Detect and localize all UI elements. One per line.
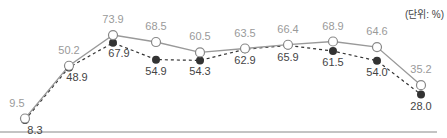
open-value-label: 64.6 — [366, 25, 387, 37]
filled-circle-marker — [329, 47, 337, 55]
open-circle-marker — [329, 37, 338, 46]
open-value-label: 73.9 — [102, 13, 123, 25]
unit-label: (단위: %) — [405, 6, 444, 21]
open-value-label: 63.5 — [234, 27, 255, 39]
open-circle-marker — [196, 48, 205, 57]
open-circle-marker — [65, 61, 74, 70]
open-circle-marker — [241, 44, 250, 53]
filled-value-label: 48.9 — [66, 71, 87, 83]
filled-circle-marker — [417, 91, 425, 99]
open-circle-marker — [417, 81, 426, 90]
open-circle-marker — [109, 31, 118, 40]
filled-value-label: 54.0 — [366, 66, 387, 78]
open-value-label: 68.9 — [322, 20, 343, 32]
filled-value-label: 67.9 — [108, 47, 129, 59]
open-value-label: 9.5 — [9, 97, 24, 109]
open-circle-marker — [284, 40, 293, 49]
filled-value-label: 54.3 — [189, 65, 210, 77]
line-chart: 9.550.273.968.560.563.566.468.964.635.28… — [0, 0, 447, 138]
filled-value-label: 61.5 — [322, 56, 343, 68]
filled-value-label: 65.9 — [277, 51, 298, 63]
open-value-label: 50.2 — [58, 44, 79, 56]
filled-circle-marker — [373, 57, 381, 65]
filled-value-label: 62.9 — [234, 54, 255, 66]
filled-value-label: 28.0 — [410, 100, 431, 112]
filled-value-label: 8.3 — [27, 124, 42, 136]
filled-value-label: 54.9 — [145, 65, 166, 77]
data-labels: 9.550.273.968.560.563.566.468.964.635.28… — [9, 13, 431, 136]
open-value-label: 66.4 — [277, 23, 298, 35]
filled-circle-marker — [152, 56, 160, 64]
open-value-label: 68.5 — [145, 20, 166, 32]
filled-circle-marker — [196, 56, 204, 64]
open-circle-marker — [21, 114, 30, 123]
open-circle-marker — [152, 38, 161, 47]
open-value-label: 60.5 — [189, 30, 210, 42]
open-value-label: 35.2 — [410, 63, 431, 75]
open-circle-marker — [373, 43, 382, 52]
